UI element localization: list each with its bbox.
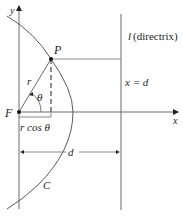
directrix-label: l(directrix) [128,30,178,43]
polar-conic-diagram: y x P F r θ r cos θ l(directrix) x = d d… [0,0,183,218]
focus-point [17,110,21,114]
point-p-label: P [53,43,62,57]
radius-label: r [27,75,32,87]
theta-label: θ [37,91,43,103]
directrix-equation: x = d [124,76,149,88]
diagram-svg: y x P F r θ r cos θ l(directrix) x = d d… [0,0,183,218]
directrix-desc: (directrix) [133,30,178,43]
point-p [49,57,53,61]
curve-label: C [43,179,51,191]
focus-label: F [4,106,13,120]
radius-line [19,59,51,112]
distance-label: d [68,146,74,158]
x-axis-label: x [172,115,178,126]
y-axis-label: y [9,5,15,16]
directrix-name: l [128,30,131,42]
rcos-label: r cos θ [20,121,50,133]
